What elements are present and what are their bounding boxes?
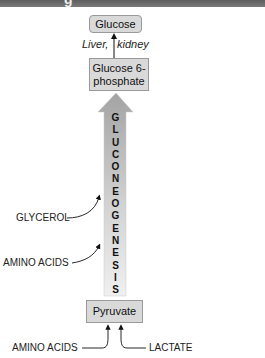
gluconeogenesis-label: G L U C O N E O G E N E S I S [104,112,127,296]
process-letter: O [112,198,120,210]
glucose-6-phosphate-label: Glucose 6-phosphate [92,62,146,88]
pyruvate-node: Pyruvate [86,300,143,323]
amino-acids-bottom-arrow-icon [82,327,108,348]
amino-acids-bottom-label: AMINO ACIDS [12,342,78,353]
process-letter: O [112,161,120,173]
process-letter: S [112,284,119,296]
process-letter: E [112,247,119,259]
organ-label-liver: Liver, [82,38,108,50]
amino-acids-side-label: AMINO ACIDS [3,257,69,268]
process-letter: U [112,137,119,149]
process-letter: N [112,235,119,247]
glucose-6-phosphate-node: Glucose 6-phosphate [89,58,149,91]
glycerol-arrow-icon [67,197,99,218]
glucose-label: Glucose [95,18,135,31]
process-letter: N [112,173,119,185]
process-letter: C [112,149,119,161]
process-letter: G [112,112,120,124]
glycerol-label: GLYCEROL [16,212,70,223]
process-letter: E [112,186,119,198]
process-letter: G [112,210,120,222]
process-letter: E [112,223,119,235]
glucose-node: Glucose [89,15,142,33]
pyruvate-label: Pyruvate [93,305,136,318]
process-letter: I [114,272,117,284]
amino-acids-side-arrow-icon [72,246,99,263]
lactate-arrow-icon [121,327,146,348]
process-letter: L [112,124,118,136]
process-letter: S [112,260,119,272]
organ-label-kidney: kidney [117,38,149,50]
lactate-label: LACTATE [149,342,193,353]
